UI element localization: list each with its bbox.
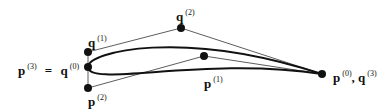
label-sup: (3): [27, 62, 36, 71]
label-p3-eq-q0: p(3) = q(0): [18, 63, 79, 77]
label-q2: q(2): [176, 9, 195, 23]
label-sup: (2): [97, 93, 106, 102]
label-p2: p(2): [88, 94, 107, 108]
label-p0-q3: p(0), q(3): [333, 70, 377, 84]
label-text: q: [88, 35, 95, 50]
label-sup: (0): [342, 69, 351, 78]
label-text: p: [333, 70, 340, 85]
label-sup: (1): [97, 34, 106, 43]
label-text: p: [204, 76, 211, 91]
label-text: q: [60, 63, 67, 78]
label-text: q: [176, 9, 183, 24]
label-sup: (0): [70, 62, 79, 71]
label-text: p: [18, 63, 25, 78]
label-text: p: [88, 94, 95, 109]
label-separator: ,: [352, 70, 355, 85]
label-sup: (1): [213, 75, 222, 84]
label-text: q: [358, 70, 365, 85]
airfoil-curve: [88, 47, 322, 74]
label-sup: (2): [185, 8, 194, 17]
label-q1: q(1): [88, 35, 107, 49]
label-p1: p(1): [204, 76, 223, 90]
equals-sign: =: [45, 63, 52, 78]
label-sup: (3): [367, 69, 376, 78]
